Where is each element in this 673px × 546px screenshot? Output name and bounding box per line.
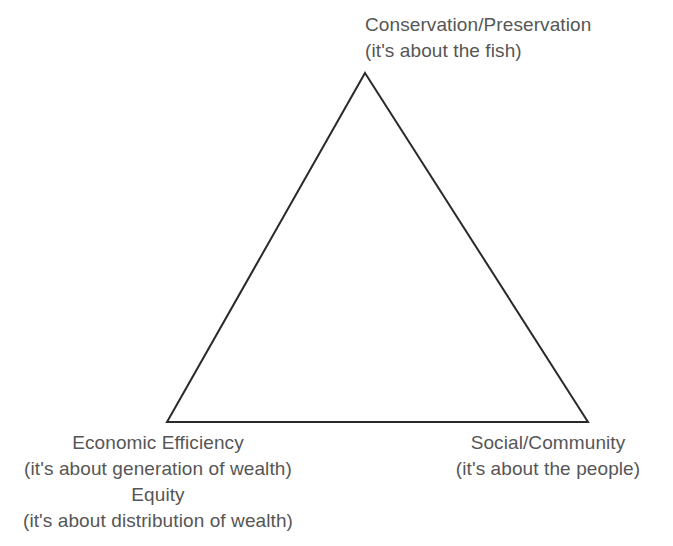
label-social-community: Social/Community (it's about the people) <box>456 430 640 482</box>
label-economic-line1: Economic Efficiency <box>23 430 293 456</box>
label-economic-line2: (it's about generation of wealth) <box>23 456 293 482</box>
label-equity-line2: (it's about distribution of wealth) <box>23 508 293 534</box>
label-social-line2: (it's about the people) <box>456 456 640 482</box>
diagram-canvas: Conservation/Preservation (it's about th… <box>0 0 673 546</box>
triangle-outline <box>167 73 588 422</box>
label-equity-line1: Equity <box>23 482 293 508</box>
label-social-line1: Social/Community <box>456 430 640 456</box>
label-economic-efficiency-equity: Economic Efficiency (it's about generati… <box>23 430 293 534</box>
